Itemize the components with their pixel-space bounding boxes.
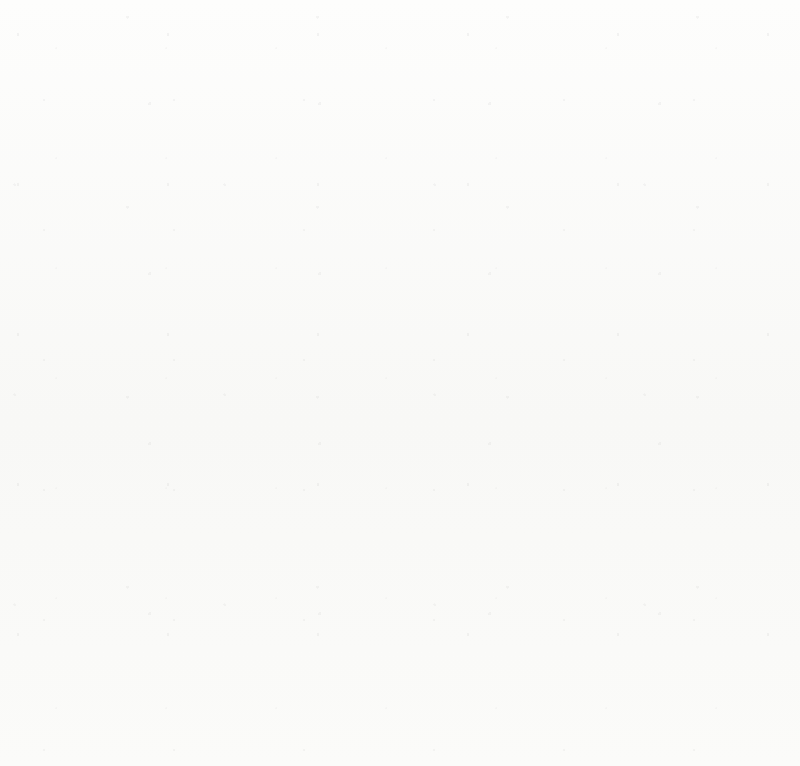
y-axis-arrowhead <box>107 44 121 62</box>
origin-label: O <box>86 636 106 667</box>
x-tick-label: 2017 <box>700 648 780 677</box>
line-chart: Violent Crimes Reported in the US (in mi… <box>0 0 800 766</box>
x-tick-label: 2008 <box>483 648 563 677</box>
x-tick-label: 2014 <box>628 648 708 677</box>
x-tick-label: 1999 <box>267 648 347 677</box>
y-tick-label: 1 <box>56 329 96 358</box>
y-axis-tick-marks <box>100 57 114 346</box>
axis-lines <box>104 44 748 642</box>
y-tick-label: 2 <box>56 40 96 69</box>
x-tick-label: 1993 <box>122 648 202 677</box>
x-tick-label: 2011 <box>556 648 636 677</box>
x-tick-label: 2005 <box>411 648 491 677</box>
x-tick-label: 1996 <box>194 648 274 677</box>
x-tick-label: 2002 <box>339 648 419 677</box>
x-axis-title: Year <box>0 700 800 728</box>
y-axis-title: Violent Crimes Reported in the US (in mi… <box>56 106 85 650</box>
